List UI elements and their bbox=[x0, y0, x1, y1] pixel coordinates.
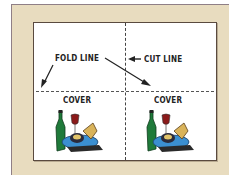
card-sheet: FOLD LINE CUT LINE COVER COVER bbox=[33, 22, 217, 161]
fold-arrow-icon bbox=[41, 65, 53, 88]
fold-diagonal-arrow-icon bbox=[105, 58, 151, 86]
cut-arrow-icon bbox=[128, 56, 141, 62]
cover-left-label: COVER bbox=[63, 95, 91, 105]
wine-bottle-glass-and-food-platter-icon bbox=[53, 109, 105, 155]
cover-right-label: COVER bbox=[154, 95, 182, 105]
wine-bottle-glass-and-food-platter-icon bbox=[144, 109, 196, 155]
